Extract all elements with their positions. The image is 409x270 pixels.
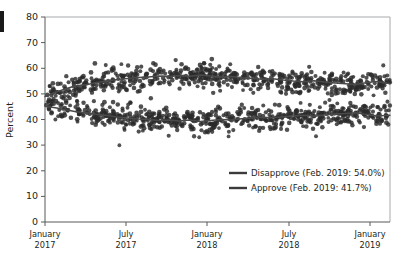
scatter-point [214,110,218,114]
scatter-point [90,117,94,121]
scatter-point [326,120,330,124]
scatter-point [342,71,346,75]
scatter-point [316,118,320,122]
scatter-point [384,120,389,125]
scatter-point [175,128,179,132]
scatter-point [77,89,82,94]
scatter-point [272,73,276,77]
scatter-point [139,104,144,109]
y-axis-title: Percent [4,102,15,138]
scatter-point [187,81,191,85]
scatter-point [250,106,255,111]
scatter-point [361,105,366,110]
scatter-point [261,70,265,74]
scatter-point [307,110,312,115]
scatter-point [338,87,342,91]
scatter-point [208,63,212,67]
scatter-point [218,84,222,88]
scatter-point [144,72,148,76]
y-tick-label: 10 [26,190,38,201]
scatter-point [64,100,69,105]
scatter-point [317,84,322,89]
scatter-point [256,108,261,113]
scatter-point [278,89,283,94]
scatter-point [54,99,59,104]
scatter-point [311,127,316,132]
scatter-point [58,103,63,108]
scatter-point [309,84,314,89]
scatter-point [131,121,135,125]
scatter-point [161,114,165,118]
scatter-point [210,82,215,87]
scatter-point [307,65,311,69]
scatter-point [205,129,210,134]
scatter-point [320,125,325,130]
scatter-point [53,118,57,122]
scatter-point [120,120,124,124]
scatter-point [101,107,105,111]
scatter-point [128,83,132,87]
scatter-point [385,100,389,104]
scatter-point [94,120,98,124]
scatter-point [240,103,244,107]
scatter-point [209,69,213,73]
scatter-point [305,75,310,80]
scatter-point [115,74,119,78]
scatter-point [168,70,173,75]
scatter-point [141,84,146,89]
x-axis-ticks: January 2017 July 2017 January 2018 July… [28,222,385,250]
scatter-point [174,58,178,62]
scatter-point [218,89,222,93]
scatter-point [168,82,172,86]
scatter-point [153,62,158,67]
scatter-point [279,123,283,127]
scatter-point [190,77,194,81]
scatter-point [138,69,142,73]
scatter-point [108,105,112,109]
scatter-point [245,119,249,123]
scatter-point [162,81,166,85]
scatter-point [167,134,171,138]
scatter-point [93,87,97,91]
scatter-point [180,122,185,127]
x-tick-label: 2017 [35,240,56,250]
scatter-point [202,61,206,65]
scatter-point [268,125,272,129]
scatter-point [239,122,243,126]
scatter-point [49,111,54,116]
scatter-point [335,101,339,105]
scatter-point [139,65,143,69]
scatter-point [359,92,364,97]
scatter-point [160,124,165,129]
scatter-point [249,87,253,91]
scatter-point [147,122,152,127]
scatter-point [372,116,376,120]
y-tick-label: 70 [26,37,38,48]
scatter-point [354,87,358,91]
scatter-point [277,103,282,108]
y-tick-label: 50 [26,88,38,99]
scatter-point [245,83,250,88]
scatter-point [286,107,291,112]
scatter-point [173,111,177,115]
scatter-point [318,105,322,109]
scatter-point [314,134,318,138]
scatter-point [287,121,292,126]
scatter-point [387,108,391,112]
scatter-point [271,118,275,122]
scatter-point [196,84,200,88]
scatter-point [284,88,288,92]
scatter-point [190,125,194,129]
scatter-point [62,94,66,98]
scatter-point [62,90,66,94]
scatter-point [48,84,52,88]
scatter-point [348,90,352,94]
scatter-point [199,67,203,71]
approval-scatter-chart: 80 70 60 50 40 30 20 10 0 Percent Januar… [0,0,409,270]
scatter-point [119,62,123,66]
scatter-point [92,61,97,66]
scatter-point [64,74,68,78]
scatter-point [270,69,274,73]
y-tick-label: 80 [26,11,38,22]
chart-figure: 80 70 60 50 40 30 20 10 0 Percent Januar… [0,0,409,270]
